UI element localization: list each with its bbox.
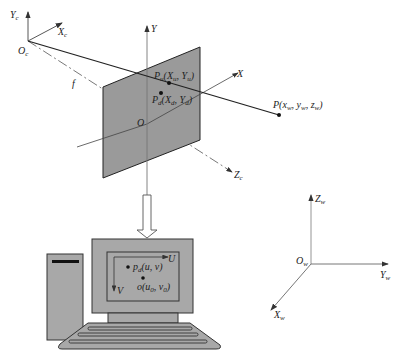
- camera-z-label: Zc: [234, 169, 244, 182]
- principal-point: [141, 276, 145, 280]
- computer-tower: [47, 254, 83, 340]
- pixel-u-label: U: [168, 253, 176, 264]
- world-z-label: Zw: [315, 193, 326, 206]
- down-arrow-icon: [137, 195, 157, 238]
- monitor-stand: [108, 313, 178, 323]
- camera-origin-label: Oc: [18, 45, 29, 58]
- focal-length-label: f: [72, 78, 76, 89]
- camera-model-diagram: Yc Xc Oc f Zc X Y O Pu(Xu, Yu) Pd(Xd, Yd…: [0, 0, 403, 363]
- world-frame: Zw Ow Yw Xw: [271, 193, 391, 322]
- world-point-label: P(xw, yw, zw): [272, 99, 323, 112]
- monitor: U V pd(u, v) o(u0, v0): [92, 239, 193, 323]
- world-x-label: Xw: [273, 309, 285, 322]
- image-origin-label: O: [137, 117, 144, 128]
- world-x-axis: [271, 264, 311, 310]
- image-y-label: Y: [151, 23, 158, 34]
- camera-x-label: Xc: [57, 26, 68, 39]
- keyboard: [58, 323, 220, 349]
- image-x-label: X: [236, 68, 244, 79]
- world-origin-label: Ow: [296, 255, 308, 268]
- camera-y-label: Yc: [10, 9, 20, 22]
- pixel-point: [126, 265, 130, 269]
- camera-x-axis: [28, 23, 62, 41]
- image-plane: [103, 47, 200, 178]
- world-y-label: Yw: [380, 269, 391, 282]
- world-point: [277, 113, 281, 117]
- undistorted-point: [167, 81, 171, 85]
